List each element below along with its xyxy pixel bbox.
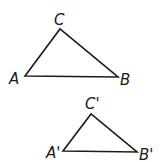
label-b-prime: B' — [139, 146, 153, 162]
label-c: C — [54, 11, 65, 29]
label-b: B — [120, 71, 130, 89]
triangle-a-prime-b-prime-c-prime — [63, 114, 137, 152]
label-a: A — [8, 70, 19, 88]
label-c-prime: C' — [85, 95, 100, 113]
triangle-abc — [25, 29, 118, 77]
diagram-canvas: C A B C' A' B' — [0, 0, 160, 162]
label-a-prime: A' — [45, 144, 60, 162]
